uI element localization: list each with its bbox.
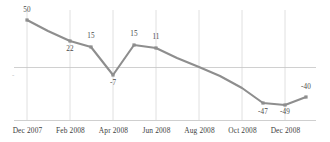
data-label-nov-2008: -47 — [253, 108, 273, 116]
x-tick-feb-2008: Feb 2008 — [48, 126, 93, 135]
vertical-gridlines — [27, 10, 285, 120]
x-tick-oct-2008: Oct 2008 — [220, 126, 265, 135]
data-series-line — [27, 20, 306, 105]
data-point-markers — [25, 18, 307, 106]
data-label-may-2008: 15 — [124, 30, 144, 38]
data-label-dec-2007: 50 — [17, 6, 37, 14]
chart-plot-area: .gridline { stroke: #d8d8d8; stroke-widt… — [0, 0, 330, 142]
x-tick-apr-2008: Apr 2008 — [91, 126, 136, 135]
data-label-jun-2008: 11 — [146, 33, 166, 41]
x-tick-dec-2008: Dec 2008 — [263, 126, 308, 135]
data-label-apr-2008: -7 — [103, 79, 123, 87]
y-axis-zero-mark: - — [12, 71, 14, 79]
data-label-jan-2009: -40 — [296, 83, 316, 91]
data-label-mar-2008: 15 — [81, 32, 101, 40]
x-tick-jun-2008: Jun 2008 — [134, 126, 179, 135]
line-chart: .gridline { stroke: #d8d8d8; stroke-widt… — [0, 0, 330, 142]
data-label-feb-2008: 22 — [60, 45, 80, 53]
x-tick-dec-2007: Dec 2007 — [5, 126, 50, 135]
data-label-dec-2008: -49 — [275, 108, 295, 116]
x-tick-aug-2008: Aug 2008 — [177, 126, 222, 135]
